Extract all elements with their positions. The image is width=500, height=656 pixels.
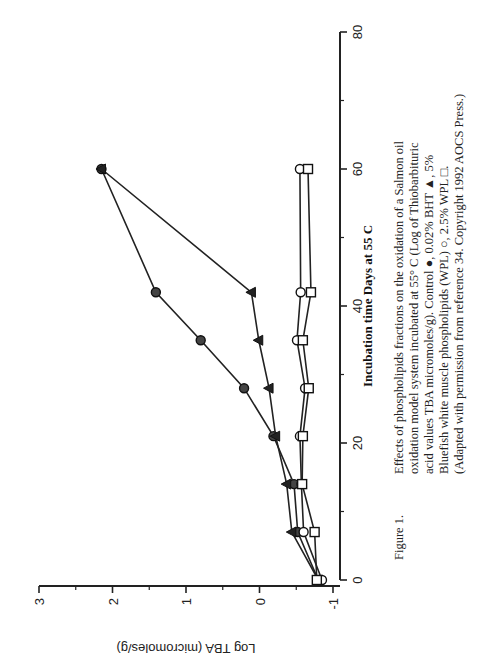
caption-line: Effects of phospholipids fractions on th… [392,20,407,474]
filled-circle-marker [240,384,249,393]
y-tick-label: 2 [106,598,121,605]
open-square-marker [304,165,313,174]
x-tick-label: 60 [350,162,365,176]
figure-label: Figure 1. [392,474,467,560]
filled-circle-marker [151,288,160,297]
series-line [302,169,317,580]
series-0-02-bht [96,164,322,585]
axes: 020406080-10123 [32,25,365,610]
x-tick-label: 20 [350,436,365,450]
data-series [96,164,327,585]
caption-line: (Adapted with permission from reference … [452,20,467,474]
caption-line: oxidation model system incubated at 55° … [407,20,422,474]
caption-line: Bluefish white muscle phospholipids (WPL… [437,20,452,474]
open-circle-marker [296,288,305,297]
caption-line: acid values TBA micromoles/g). Control ●… [422,20,437,474]
y-tick-label: 3 [32,598,47,605]
rotated-figure-page: 020406080-10123 Incubation time Days at … [0,0,500,656]
open-square-marker [298,432,307,441]
y-tick-label: 0 [253,598,268,605]
figure-caption: Figure 1. Effects of phospholipids fract… [392,20,467,560]
caption-text: Effects of phospholipids fractions on th… [392,20,467,474]
series-control [97,165,323,585]
open-square-marker [312,576,321,585]
series-2-5-wpl [298,165,322,585]
x-axis-title: Incubation time Days at 55 C [360,225,375,387]
line-chart: 020406080-10123 Incubation time Days at … [0,0,380,656]
open-circle-marker [299,528,308,537]
x-tick-label: 80 [350,25,365,39]
y-tick-label: -1 [326,598,341,610]
x-tick-label: 0 [350,576,365,583]
series-line [101,169,318,580]
y-axis-title: Log TBA (micromoles/g) [116,641,255,656]
open-square-marker [304,384,313,393]
filled-circle-marker [196,336,205,345]
series-line [101,169,318,580]
open-square-marker [298,336,307,345]
y-tick-label: 1 [179,598,194,605]
open-square-marker [298,480,307,489]
open-square-marker [306,288,315,297]
open-square-marker [310,528,319,537]
